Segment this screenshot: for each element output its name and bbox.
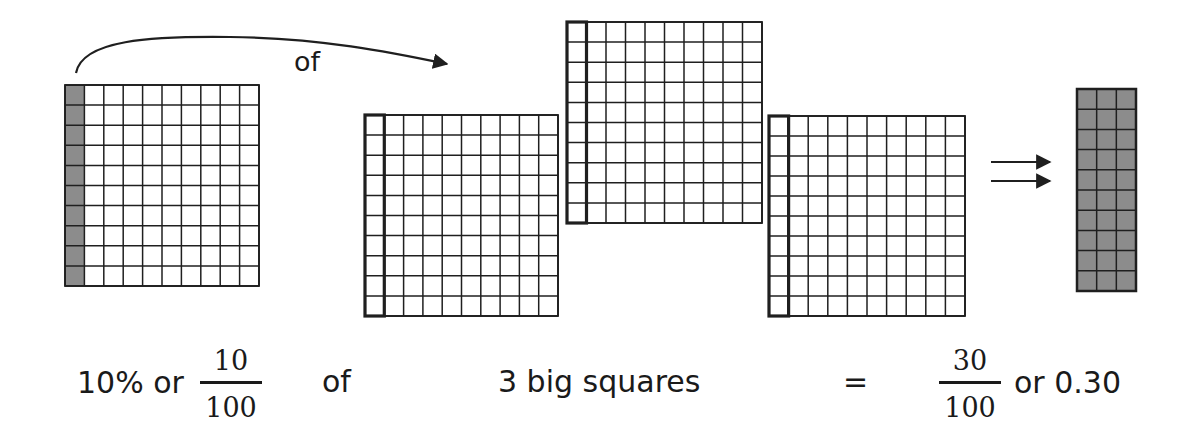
equation-percent-text: 10% or — [77, 368, 184, 398]
grid-big-square-2 — [567, 22, 762, 223]
grid-result-strip — [1077, 89, 1136, 291]
result-decimal-text: or 0.30 — [1014, 368, 1121, 398]
fraction2-numerator: 30 — [939, 347, 1001, 374]
fraction1-numerator: 10 — [200, 347, 262, 374]
grid-big-square-3 — [769, 116, 965, 316]
grid-tenth-of-square — [65, 85, 259, 286]
big-squares-text: 3 big squares — [498, 367, 700, 397]
fraction1-bar — [200, 381, 262, 384]
curved-of-arrow — [76, 37, 447, 73]
equation-of-text: of — [322, 367, 351, 397]
fraction1-denominator: 100 — [200, 394, 262, 421]
equals-sign: = — [843, 367, 868, 397]
fraction2-denominator: 100 — [939, 394, 1001, 421]
grid-big-square-1 — [365, 115, 558, 316]
arrow-label-of: of — [294, 48, 320, 75]
fraction2-bar — [939, 381, 1001, 384]
